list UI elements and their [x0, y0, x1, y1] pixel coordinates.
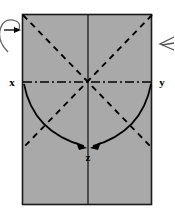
fold-diagram-canvas: x y z [0, 0, 175, 218]
y-axis-label: y [159, 76, 165, 88]
rectangular-sheet [23, 15, 152, 205]
rotation-arrow-right [160, 37, 174, 50]
rotation-arrow-left [0, 20, 21, 52]
z-axis-label: z [86, 151, 91, 163]
fold-diagram-figure: x y z [0, 0, 175, 218]
x-axis-label: x [9, 76, 15, 88]
